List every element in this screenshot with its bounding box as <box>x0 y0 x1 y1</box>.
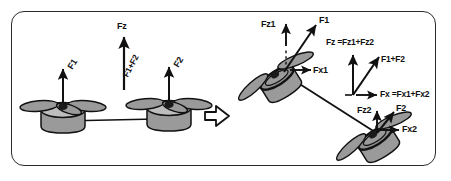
right-fx1-label: Fx1 <box>313 66 328 75</box>
right-fz2-label: Fz2 <box>357 106 371 115</box>
right-fx2-label: Fx2 <box>402 125 417 134</box>
right-fz1-label: Fz1 <box>261 20 275 29</box>
left-rotor-2-body <box>126 97 213 131</box>
left-rotor-1-body <box>20 99 107 133</box>
right-resultant-equation: F1+F2 <box>381 55 405 64</box>
right-fx-equation: Fx =Fx1+Fx2 <box>380 90 429 99</box>
right-rotor-1-body <box>232 43 326 119</box>
figure-root: F1 F2 Fz F1+F2 Fz1 F1 Fx1 Fz2 F2 Fx2 Fz … <box>0 0 451 181</box>
right-panel-graphics <box>232 24 424 179</box>
right-f2-label: F2 <box>396 104 406 113</box>
block-arrow-right-icon <box>205 106 229 126</box>
left-panel-graphics <box>20 37 213 133</box>
right-f1-arrow <box>284 25 316 72</box>
right-resultant-arrow <box>353 57 379 95</box>
right-fz-equation: Fz =Fz1+Fz2 <box>326 38 374 47</box>
left-fz-label: Fz <box>117 22 127 31</box>
right-f1-label: F1 <box>319 16 329 25</box>
transition-arrow <box>205 106 229 126</box>
